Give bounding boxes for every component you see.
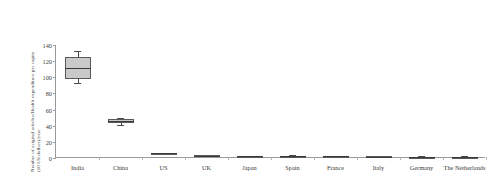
median-line	[194, 156, 220, 157]
x-tick-label: Italy	[373, 164, 385, 171]
x-tick-label: US	[159, 164, 167, 171]
box-plot-item	[194, 45, 220, 158]
median-line	[323, 156, 349, 157]
box-plot-item	[323, 45, 349, 158]
x-tick-mark	[443, 157, 444, 160]
x-tick-label: Spain	[285, 164, 299, 171]
median-line	[409, 157, 435, 158]
x-tick-label: Japan	[242, 164, 256, 171]
x-tick-label: Germany	[410, 164, 433, 171]
whisker-cap-upper	[74, 51, 82, 52]
median-line	[237, 156, 263, 157]
y-tick-mark	[53, 158, 56, 159]
plot-area: 020406080100120140 IndiaChinaUSUKJapanSp…	[55, 45, 485, 158]
x-tick-mark	[185, 157, 186, 160]
x-tick-mark	[142, 157, 143, 160]
x-tick-label: The Netherlands	[444, 164, 486, 171]
x-tick-mark	[228, 157, 229, 160]
y-tick-mark	[53, 126, 56, 127]
median-line	[65, 68, 91, 69]
y-tick-mark	[53, 93, 56, 94]
x-tick-mark	[271, 157, 272, 160]
y-tick-mark	[53, 110, 56, 111]
y-axis-title-container: Number of original articles/Health expen…	[0, 0, 34, 185]
y-tick-mark	[53, 61, 56, 62]
y-tick-mark	[53, 142, 56, 143]
x-tick-mark	[99, 157, 100, 160]
y-axis-title: Number of original articles/Health expen…	[30, 4, 42, 172]
x-tick-mark	[486, 157, 487, 160]
box-plot-item	[366, 45, 392, 158]
box-plot-item	[452, 45, 478, 158]
median-line	[366, 157, 392, 158]
box-plot-item	[108, 45, 134, 158]
whisker-cap-lower	[74, 83, 82, 84]
y-tick-mark	[53, 77, 56, 78]
boxplot-chart: Number of original articles/Health expen…	[0, 0, 494, 185]
whisker-cap-lower	[117, 125, 125, 126]
x-tick-label: UK	[202, 164, 211, 171]
median-line	[280, 156, 306, 157]
y-tick-mark	[53, 45, 56, 46]
box-plot-item	[65, 45, 91, 158]
median-line	[108, 121, 134, 122]
x-tick-mark	[314, 157, 315, 160]
box-plot-item	[151, 45, 177, 158]
x-tick-mark	[357, 157, 358, 160]
x-tick-label: France	[327, 164, 344, 171]
box-plot-item	[237, 45, 263, 158]
box-plot-item	[280, 45, 306, 158]
y-axis-title-line1: Number of original articles/Health expen…	[30, 52, 35, 172]
median-line	[452, 157, 478, 158]
y-axis-title-line2: (10 US dollars)/year	[36, 4, 42, 172]
x-tick-label: China	[113, 164, 128, 171]
x-tick-label: India	[71, 164, 84, 171]
box-plot-item	[409, 45, 435, 158]
x-tick-mark	[400, 157, 401, 160]
median-line	[151, 153, 177, 154]
